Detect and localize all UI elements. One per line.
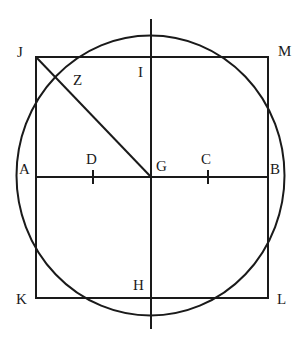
label-a: A xyxy=(19,162,30,177)
label-k: K xyxy=(16,292,27,307)
label-m: M xyxy=(278,44,291,59)
label-b: B xyxy=(270,162,280,177)
label-z: Z xyxy=(73,73,82,88)
label-h: H xyxy=(133,278,144,293)
geometry-diagram: J M I Z A D G C B H K L xyxy=(0,0,306,341)
label-i: I xyxy=(138,65,143,80)
label-l: L xyxy=(277,292,286,307)
label-g: G xyxy=(156,159,167,174)
label-c: C xyxy=(201,152,211,167)
label-d: D xyxy=(86,152,97,167)
label-j: J xyxy=(17,45,23,60)
diagram-svg xyxy=(0,0,306,341)
